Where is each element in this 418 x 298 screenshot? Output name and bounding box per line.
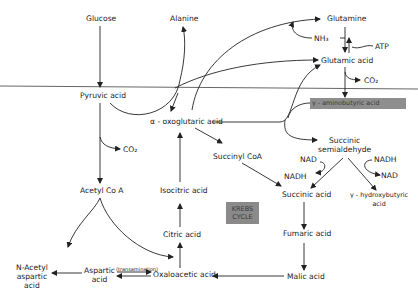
label-aspartic-line1: Aspartic: [84, 266, 115, 275]
label-hydroxybutyric-line1: γ - hydroxybutyric: [350, 191, 408, 200]
arrow-co2-left: [100, 137, 120, 149]
label-succinic-semialdehyde-line1: Succinic: [318, 136, 371, 145]
arrow-to-succinic-semialdehyde: [285, 120, 317, 140]
arrow-semialdehyde-to-hydroxy: [348, 158, 376, 190]
arrow-nh3-loop: [292, 22, 312, 38]
label-nad-right: NAD: [381, 171, 398, 180]
label-isocitric-acid: Isocitric acid: [160, 186, 208, 195]
label-citric-acid: Citric acid: [163, 230, 201, 239]
label-atp: ATP: [375, 42, 389, 51]
arrow-pyruvic-to-alanine: [110, 27, 185, 115]
label-nadh-left: NADH: [284, 172, 306, 181]
label-transamination: (transamination): [116, 265, 158, 274]
label-co2-top: CO₂: [364, 76, 378, 85]
arrow-co2-top: [345, 72, 360, 80]
label-glucose: Glucose: [86, 14, 116, 23]
nad-left-curve: [316, 162, 325, 173]
label-pyruvic-acid: Pyruvic acid: [80, 91, 126, 100]
label-acetyl-coa: Acetyl Co A: [80, 186, 123, 195]
arrow-acetyl-to-oxalo: [100, 198, 173, 257]
arrow-acetyl-to-naa: [68, 198, 100, 247]
arrow-alpha-to-glutamic-curve: [212, 65, 320, 122]
label-hydroxybutyric: γ - hydroxybutyric acid: [350, 191, 408, 209]
arrow-succinylcoa-to-succinic: [242, 163, 281, 186]
label-alpha-oxoglutaric: α - oxoglutaric acid: [150, 117, 223, 126]
label-alanine: Alanine: [170, 14, 198, 23]
label-gaba: γ - aminobutyric acid: [310, 98, 406, 109]
label-krebs-line1: KREBS: [226, 205, 259, 213]
label-krebs-line2: CYCLE: [226, 213, 259, 221]
label-oxaloacetic-acid: Oxaloacetic acid: [153, 270, 216, 279]
label-glutamic-acid: Glutamic acid: [321, 56, 373, 65]
label-succinyl-coa: Succinyl CoA: [213, 152, 262, 161]
label-glutamine: Glutamine: [327, 14, 366, 23]
arrow-to-glutamic: [175, 60, 318, 88]
label-aspartic-line2: acid: [84, 275, 115, 284]
label-nadh-right: NADH: [374, 155, 396, 164]
label-nad-left: NAD: [300, 155, 317, 164]
label-fumaric-acid: Fumaric acid: [283, 229, 331, 238]
label-n-acetyl-line2: aspartic: [16, 272, 48, 281]
label-malic-acid: Malic acid: [287, 272, 325, 281]
atp-curve: [352, 46, 373, 48]
gaba-to-branch: [288, 103, 310, 118]
label-n-acetyl-line3: acid: [16, 281, 48, 290]
label-hydroxybutyric-line2: acid: [350, 200, 408, 209]
label-succinic-semialdehyde-line2: semialdehyde: [318, 145, 371, 154]
label-nh3: NH₃: [314, 34, 328, 43]
membrane-divider-line: [0, 86, 418, 89]
label-n-acetyl-aspartic-acid: N-Acetyl aspartic acid: [16, 263, 48, 290]
label-succinic-semialdehyde: Succinic semialdehyde: [318, 136, 371, 154]
label-aspartic-acid: Aspartic acid: [84, 266, 115, 284]
label-krebs-cycle: KREBS CYCLE: [226, 202, 259, 224]
arrow-alpha-to-succinylcoa: [195, 128, 222, 143]
label-co2-left: CO₂: [123, 145, 137, 154]
arrow-alpha-to-glutamine: [192, 19, 320, 110]
label-n-acetyl-line1: N-Acetyl: [16, 263, 48, 272]
label-succinic-acid: Succinic acid: [282, 190, 331, 199]
